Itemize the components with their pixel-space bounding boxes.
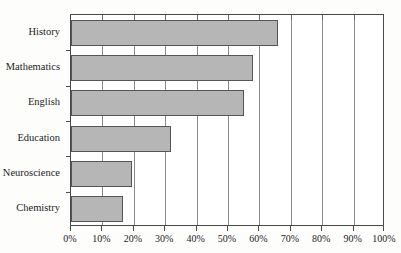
bar-row: [71, 90, 385, 116]
y-tick: [66, 192, 71, 193]
y-tick: [66, 156, 71, 157]
x-tick-label: 70%: [281, 233, 299, 245]
x-tick-20%: [133, 226, 134, 231]
x-tick-label: 60%: [249, 233, 267, 245]
x-tick-40%: [196, 226, 197, 231]
x-tick-label: 90%: [343, 233, 361, 245]
x-tick-90%: [353, 226, 354, 231]
bar-row: [71, 20, 385, 46]
bar-row: [71, 161, 385, 187]
x-tick-50%: [227, 226, 228, 231]
y-tick-label-neuroscience: Neuroscience: [3, 167, 60, 178]
x-tick-label: 30%: [155, 233, 173, 245]
y-tick-label-chemistry: Chemistry: [16, 202, 60, 213]
x-tick-label: 20%: [124, 233, 142, 245]
y-axis-labels: HistoryMathematicsEnglishEducationNeuros…: [0, 14, 66, 226]
y-tick-label-education: Education: [17, 132, 60, 143]
y-tick-label-history: History: [29, 26, 61, 37]
x-tick-70%: [290, 226, 291, 231]
x-tick-30%: [164, 226, 165, 231]
bar-neuroscience: [71, 161, 132, 187]
x-tick-label: 50%: [218, 233, 236, 245]
x-tick-label: 80%: [312, 233, 330, 245]
x-tick-80%: [321, 226, 322, 231]
bar-chart: HistoryMathematicsEnglishEducationNeuros…: [0, 0, 401, 253]
y-tick: [66, 121, 71, 122]
plot-area: [70, 14, 384, 226]
x-axis: 0%10%20%30%40%50%60%70%80%90%100%: [70, 226, 384, 253]
x-tick-10%: [101, 226, 102, 231]
bar-row: [71, 196, 385, 222]
bar-education: [71, 126, 171, 152]
bar-row: [71, 55, 385, 81]
x-tick-label: 0%: [63, 233, 76, 245]
x-tick-60%: [258, 226, 259, 231]
y-tick-label-mathematics: Mathematics: [6, 61, 60, 72]
x-tick-0%: [70, 226, 71, 231]
y-tick: [66, 86, 71, 87]
x-tick-label: 40%: [186, 233, 204, 245]
x-tick-100%: [383, 226, 384, 231]
y-tick-label-english: English: [28, 96, 60, 107]
bar-row: [71, 126, 385, 152]
y-tick: [66, 50, 71, 51]
bar-chemistry: [71, 196, 123, 222]
bar-mathematics: [71, 55, 253, 81]
bars-layer: [71, 15, 383, 225]
x-tick-label: 100%: [372, 233, 395, 245]
bar-english: [71, 90, 244, 116]
x-tick-label: 10%: [92, 233, 110, 245]
bar-history: [71, 20, 278, 46]
